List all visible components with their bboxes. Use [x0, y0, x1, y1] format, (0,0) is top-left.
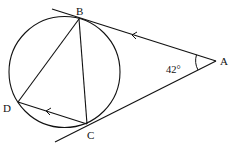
label-b: B	[76, 5, 83, 17]
chord-bc	[79, 19, 87, 124]
circle	[9, 17, 120, 128]
geometry-diagram: B A C D 42°	[0, 0, 232, 146]
label-c: C	[87, 129, 94, 141]
angle-arc	[196, 55, 198, 70]
chord-dc	[18, 102, 87, 124]
angle-label: 42°	[166, 64, 181, 75]
label-a: A	[220, 55, 228, 67]
label-d: D	[3, 102, 11, 114]
tangent-line-ac	[55, 61, 216, 142]
